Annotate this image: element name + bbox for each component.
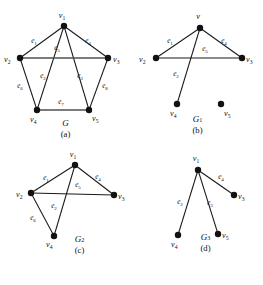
vertex-v3 [231, 192, 237, 198]
edge-label-e5: e5 [75, 181, 81, 190]
vertex-v3 [111, 192, 117, 198]
edge-label-e3: e3 [207, 199, 213, 208]
edge-e6 [20, 58, 37, 110]
caption-g3-letter: (d) [148, 243, 263, 253]
edge-e2 [54, 165, 75, 236]
graph-drawing-g1: e1e4e5e2vv2v3v4v5 [132, 6, 263, 128]
edge-label-e7: e7 [58, 98, 64, 107]
edge-label-e6: e6 [30, 214, 36, 223]
vertex-v4 [34, 107, 40, 113]
caption-g2: G2 (c) [22, 234, 137, 255]
vertex-label-v1: v [196, 12, 200, 21]
caption-g-letter: (a) [0, 129, 131, 139]
caption-g-name: G [62, 118, 69, 128]
edge-label-e8: e8 [102, 82, 108, 91]
edge-label-e4: e4 [95, 173, 101, 182]
edge-label-e3: e3 [77, 72, 83, 81]
vertex-label-v3: v3 [246, 55, 253, 65]
caption-g: G (a) [0, 118, 131, 139]
vertex-v1 [72, 162, 78, 168]
vertex-v5 [218, 101, 224, 107]
vertex-v1 [195, 167, 201, 173]
vertex-v3 [105, 55, 111, 61]
vertex-label-v1: v1 [59, 11, 66, 21]
edge-e5 [31, 193, 114, 195]
edge-e2 [177, 28, 200, 104]
caption-g2-sub: 2 [81, 236, 84, 243]
vertex-label-v2: v2 [139, 55, 146, 65]
vertex-label-v1: v1 [70, 150, 77, 160]
vertex-label-v1: v1 [193, 154, 200, 164]
caption-g3-sub: 3 [207, 234, 210, 241]
vertex-v4 [174, 101, 180, 107]
edge-label-e4: e4 [218, 173, 224, 182]
edge-label-e1: e1 [31, 37, 37, 46]
edge-e1 [156, 28, 200, 58]
edge-label-e2: e2 [40, 72, 46, 81]
vertex-v2 [17, 55, 23, 61]
caption-g2-letter: (c) [22, 245, 137, 255]
caption-g1: G1 (b) [132, 114, 263, 135]
graph-figure: e1e2e3e4e5e6e7e8v1v2v3v4v5 G (a) e1e4e5e… [0, 0, 263, 285]
vertex-v1 [197, 25, 203, 31]
vertex-v5 [86, 107, 92, 113]
graph-panel-g1: e1e4e5e2vv2v3v4v5 G1 (b) [132, 6, 263, 128]
graph-panel-g: e1e2e3e4e5e6e7e8v1v2v3v4v5 G (a) [0, 6, 131, 128]
caption-g3: G3 (d) [148, 232, 263, 253]
graph-drawing-g: e1e2e3e4e5e6e7e8v1v2v3v4v5 [0, 6, 131, 128]
graph-panel-g3: e4e2e3v1v3v4v5 G3 (d) [148, 148, 263, 260]
edge-label-e5: e5 [54, 44, 60, 53]
caption-g1-sub: 1 [199, 116, 202, 123]
vertex-v1 [61, 23, 67, 29]
edge-label-e4: e4 [85, 37, 91, 46]
graph-panel-g2: e1e4e5e2e6v1v2v3v4 G2 (c) [22, 148, 137, 258]
caption-g1-letter: (b) [132, 125, 263, 135]
vertex-label-v3: v3 [118, 192, 125, 202]
edge-label-e2: e2 [177, 198, 183, 207]
edge-e1 [20, 26, 64, 58]
vertex-label-v3: v3 [113, 55, 120, 65]
edge-label-e4: e4 [221, 37, 227, 46]
vertex-v2 [28, 190, 34, 196]
vertex-v2 [153, 55, 159, 61]
edge-e6 [31, 193, 54, 236]
edge-label-e1: e1 [167, 37, 173, 46]
vertex-label-v3: v3 [238, 192, 245, 202]
edge-label-e2: e2 [51, 202, 57, 211]
edge-label-e1: e1 [43, 174, 49, 183]
edge-label-e6: e6 [17, 82, 23, 91]
vertex-v3 [239, 55, 245, 61]
edge-label-e5: e5 [202, 45, 208, 54]
vertex-label-v2: v2 [4, 55, 11, 65]
edge-label-e2: e2 [173, 70, 179, 79]
edge-e4 [198, 170, 234, 195]
vertex-label-v2: v2 [16, 190, 23, 200]
